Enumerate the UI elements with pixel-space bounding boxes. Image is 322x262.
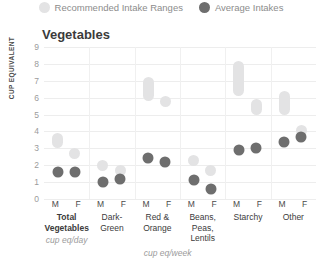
legend-label: Average Intakes	[215, 2, 283, 13]
range-band	[69, 148, 80, 159]
sex-tick-row: MF	[44, 199, 89, 209]
range-band	[279, 91, 290, 115]
category-label: Starchy	[225, 212, 270, 223]
range-band	[160, 96, 171, 107]
category-label-line: Lentils	[190, 233, 215, 243]
y-axis-tick: 5	[34, 110, 39, 119]
x-axis-group: MFOther	[271, 199, 316, 223]
sex-tick-label: M	[180, 199, 203, 209]
y-axis-tick: 6	[34, 93, 39, 102]
category-label-line: Other	[283, 212, 304, 222]
group-separator	[89, 47, 90, 199]
category-label-line: Dark-	[102, 212, 123, 222]
sex-tick-row: MF	[271, 199, 316, 209]
sex-tick-label: M	[89, 199, 112, 209]
x-axis-group: MFStarchy	[225, 199, 270, 223]
y-axis-tick: 7	[34, 77, 39, 86]
average-intake-dot	[251, 143, 262, 154]
average-intake-dot	[115, 173, 126, 184]
range-band	[52, 133, 63, 148]
range-band	[233, 61, 244, 96]
unit-label-week: cup eq/week	[144, 248, 192, 258]
range-band	[97, 160, 108, 171]
y-axis-tick: 8	[34, 60, 39, 69]
sex-tick-row: MF	[135, 199, 180, 209]
chart-legend: Recommended Intake Ranges Average Intake…	[0, 2, 322, 13]
sex-tick-label: F	[67, 199, 90, 209]
category-label-line: Red &	[146, 212, 170, 222]
sex-tick-label: M	[135, 199, 158, 209]
sex-tick-label: F	[248, 199, 271, 209]
y-axis-tick: 3	[34, 144, 39, 153]
sex-tick-label: F	[293, 199, 316, 209]
group-separator	[271, 47, 272, 199]
sex-tick-label: M	[44, 199, 67, 209]
average-intake-dot	[205, 183, 216, 194]
y-axis-tick: 4	[34, 127, 39, 136]
group-separator	[225, 47, 226, 199]
category-label: Red &Orange	[135, 212, 180, 233]
category-label: Dark-Green	[89, 212, 134, 233]
category-label-line: Vegetables	[44, 223, 88, 233]
range-band	[251, 99, 262, 114]
category-label-line: Orange	[143, 223, 171, 233]
average-intake-dot	[160, 156, 171, 167]
x-axis-group: MFBeans,Peas,Lentils	[180, 199, 225, 244]
average-intake-dot	[296, 131, 307, 142]
group-separator	[180, 47, 181, 199]
average-intake-dot	[279, 136, 290, 147]
legend-label: Recommended Intake Ranges	[55, 2, 183, 13]
y-axis-label: CUP EQUIVALENT	[8, 23, 15, 113]
sex-tick-label: F	[157, 199, 180, 209]
range-band	[143, 77, 154, 101]
category-label-line: Peas,	[192, 223, 214, 233]
legend-item-average-intakes: Average Intakes	[199, 2, 283, 13]
x-axis-group: MFDark-Green	[89, 199, 134, 233]
sex-tick-label: M	[225, 199, 248, 209]
category-label-line: Beans,	[189, 212, 215, 222]
y-axis-tick: 0	[34, 195, 39, 204]
x-axis-group: MFTotalVegetables	[44, 199, 89, 233]
sex-tick-label: F	[203, 199, 226, 209]
sex-tick-row: MF	[89, 199, 134, 209]
average-intake-dot	[188, 175, 199, 186]
circle-swatch-icon	[199, 2, 210, 13]
category-label-line: Total	[57, 212, 77, 222]
y-axis-tick: 9	[34, 43, 39, 52]
category-label-line: Green	[100, 223, 124, 233]
category-label: TotalVegetables	[44, 212, 89, 233]
average-intake-dot	[143, 153, 154, 164]
category-label: Other	[271, 212, 316, 223]
chart-title: Vegetables	[42, 27, 110, 42]
category-label: Beans,Peas,Lentils	[180, 212, 225, 244]
group-separator	[135, 47, 136, 199]
category-label-line: Starchy	[234, 212, 263, 222]
sex-tick-row: MF	[225, 199, 270, 209]
x-axis: MFTotalVegetablesMFDark-GreenMFRed &Oran…	[44, 199, 316, 262]
legend-item-recommended-ranges: Recommended Intake Ranges	[39, 2, 183, 13]
sex-tick-row: MF	[180, 199, 225, 209]
circle-swatch-icon	[39, 2, 50, 13]
sex-tick-label: F	[112, 199, 135, 209]
average-intake-dot	[52, 166, 63, 177]
plot-area: CUP EQUIVALENT 9876543210	[44, 47, 316, 199]
y-axis-tick: 1	[34, 178, 39, 187]
average-intake-dot	[69, 166, 80, 177]
x-axis-group: MFRed &Orange	[135, 199, 180, 233]
average-intake-dot	[97, 177, 108, 188]
range-band	[205, 165, 216, 176]
unit-label-day: cup eq/day	[44, 235, 89, 245]
average-intake-dot	[233, 145, 244, 156]
y-axis-tick: 2	[34, 161, 39, 170]
sex-tick-label: M	[271, 199, 294, 209]
